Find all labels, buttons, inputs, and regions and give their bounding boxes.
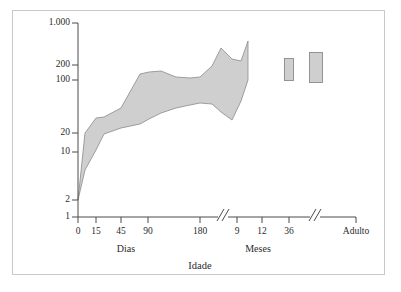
xtick-label-adulto: Adulto <box>334 226 378 236</box>
xtick-label-180: 180 <box>185 226 215 236</box>
ytick-label-10: 10 <box>30 146 70 156</box>
box-marker-adulto <box>310 53 323 83</box>
y-axis-ticks <box>72 23 78 217</box>
box-marker-36 <box>285 59 294 81</box>
ytick-label-20: 20 <box>30 127 70 137</box>
xgroup-label-dias: Dias <box>106 243 146 254</box>
ytick-label-1: 1 <box>30 211 70 221</box>
xtick-label-36: 36 <box>274 226 304 236</box>
xtick-label-12: 12 <box>247 226 277 236</box>
ytick-label-1000: 1.000 <box>30 17 70 27</box>
xgroup-label-meses: Meses <box>234 243 282 254</box>
xtick-label-45: 45 <box>106 226 136 236</box>
figure-container: 1.000 200 100 20 10 2 1 0 15 45 90 180 9… <box>0 0 401 292</box>
x-axis-title: Idade <box>170 260 230 271</box>
axis-break-mark-2 <box>309 209 321 221</box>
ytick-label-100: 100 <box>30 74 70 84</box>
ytick-label-200: 200 <box>30 59 70 69</box>
ytick-label-2: 2 <box>30 194 70 204</box>
reference-band-area <box>78 41 248 200</box>
axis-break-mark-1 <box>217 209 229 221</box>
xtick-label-90: 90 <box>133 226 163 236</box>
